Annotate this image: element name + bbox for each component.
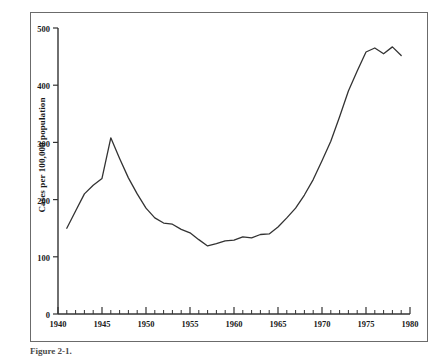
chart-plot-area — [0, 0, 432, 358]
x-axis — [58, 307, 410, 314]
figure-caption: Figure 2-1. — [30, 346, 270, 358]
data-series-line — [67, 47, 401, 246]
y-axis — [53, 28, 58, 314]
figure-root: Cases per 100,000 population 500 400 300… — [0, 0, 432, 358]
